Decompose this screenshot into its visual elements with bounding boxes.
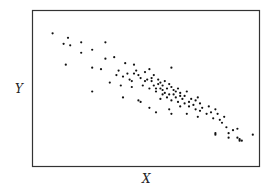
data-point: [151, 77, 153, 79]
data-point: [159, 81, 161, 83]
data-point: [217, 113, 219, 115]
data-point: [175, 90, 177, 92]
data-point: [148, 107, 150, 109]
data-point: [137, 74, 139, 76]
data-point: [184, 102, 186, 104]
data-point: [219, 119, 221, 121]
data-point: [184, 95, 186, 97]
data-point: [133, 73, 135, 75]
data-point: [166, 87, 168, 89]
data-point: [65, 64, 67, 66]
data-point: [214, 108, 216, 110]
data-point: [225, 126, 227, 128]
data-point: [155, 111, 157, 113]
data-point: [241, 140, 243, 142]
data-point: [155, 87, 157, 89]
data-point: [162, 84, 164, 86]
data-point: [210, 111, 212, 113]
data-point: [162, 89, 164, 91]
x-axis-label: X: [142, 172, 151, 186]
data-point: [239, 140, 241, 142]
data-point: [206, 113, 208, 115]
y-axis-label: Y: [15, 82, 23, 96]
data-point: [201, 107, 203, 109]
data-point: [144, 71, 146, 73]
data-point: [159, 98, 161, 100]
plot-frame: [33, 11, 260, 167]
data-point: [188, 101, 190, 103]
data-point: [115, 74, 117, 76]
data-point: [221, 122, 223, 124]
data-point: [137, 99, 139, 101]
data-point: [214, 132, 216, 134]
data-point: [153, 74, 155, 76]
data-point: [197, 96, 199, 98]
data-point: [181, 98, 183, 100]
data-point: [63, 43, 65, 45]
data-point: [177, 101, 179, 103]
data-point: [104, 41, 106, 43]
data-point: [91, 90, 93, 92]
data-point: [168, 108, 170, 110]
data-point: [188, 105, 190, 107]
data-point: [170, 86, 172, 88]
data-point: [232, 129, 234, 131]
data-point: [91, 67, 93, 69]
data-point: [186, 90, 188, 92]
data-point: [179, 92, 181, 94]
data-point: [144, 80, 146, 82]
data-point: [135, 70, 137, 72]
data-point: [100, 68, 102, 70]
data-point: [179, 95, 181, 97]
data-point: [126, 73, 128, 75]
data-point: [131, 80, 133, 82]
data-point: [131, 86, 133, 88]
scatter-plot: [0, 0, 273, 193]
data-point: [118, 70, 120, 72]
data-point: [80, 41, 82, 43]
data-point: [157, 78, 159, 80]
data-point: [228, 137, 230, 139]
data-point: [157, 83, 159, 85]
data-point: [173, 89, 175, 91]
data-point: [122, 96, 124, 98]
data-point: [186, 113, 188, 115]
data-point: [177, 87, 179, 89]
data-point: [140, 77, 142, 79]
data-point: [199, 102, 201, 104]
data-point: [170, 67, 172, 69]
data-point: [162, 93, 164, 95]
data-point: [228, 132, 230, 134]
data-point: [153, 84, 155, 86]
data-point: [104, 58, 106, 60]
data-point: [164, 92, 166, 94]
data-point: [173, 93, 175, 95]
data-point: [133, 64, 135, 66]
data-point: [179, 105, 181, 107]
data-point: [252, 134, 254, 136]
data-point: [208, 105, 210, 107]
data-point: [212, 117, 214, 119]
data-point: [197, 116, 199, 118]
data-point: [52, 32, 54, 34]
data-point: [168, 93, 170, 95]
data-point: [146, 78, 148, 80]
data-point: [120, 84, 122, 86]
data-point: [142, 84, 144, 86]
data-point: [192, 104, 194, 106]
data-point: [195, 99, 197, 101]
data-point: [195, 108, 197, 110]
data-point: [190, 98, 192, 100]
data-point: [199, 110, 201, 112]
data-point: [148, 87, 150, 89]
data-point: [166, 96, 168, 98]
data-point: [69, 44, 71, 46]
data-point: [148, 68, 150, 70]
data-point: [175, 96, 177, 98]
data-point: [124, 62, 126, 64]
data-point: [129, 78, 131, 80]
data-point: [155, 90, 157, 92]
data-point: [113, 56, 115, 58]
data-point: [122, 75, 124, 77]
data-point: [67, 37, 69, 39]
